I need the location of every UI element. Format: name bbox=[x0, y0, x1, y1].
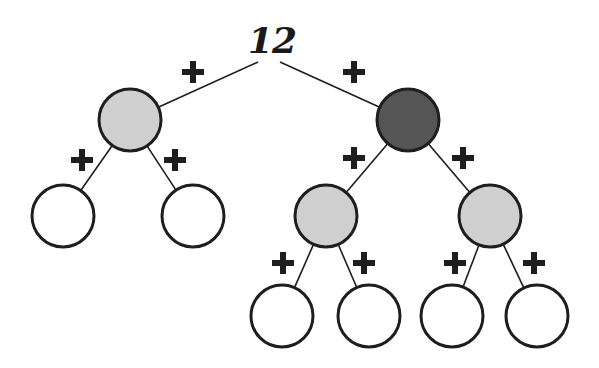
plus-icon bbox=[444, 252, 466, 274]
tree-diagram bbox=[0, 0, 599, 368]
plus-icon bbox=[452, 147, 474, 169]
tree-node-light bbox=[295, 185, 357, 247]
tree-node-empty bbox=[162, 185, 224, 247]
tree-node-empty bbox=[338, 285, 400, 347]
plus-icon bbox=[353, 252, 375, 274]
plus-icon bbox=[164, 149, 186, 171]
tree-edge bbox=[158, 62, 258, 107]
tree-node-light bbox=[459, 185, 521, 247]
plus-icon bbox=[182, 61, 204, 83]
tree-node-light bbox=[99, 89, 161, 151]
tree-node-empty bbox=[506, 285, 568, 347]
tree-node-empty bbox=[251, 285, 313, 347]
plus-icon bbox=[343, 147, 365, 169]
root-value-label: 12 bbox=[248, 22, 296, 58]
tree-edge bbox=[503, 244, 524, 288]
tree-node-empty bbox=[421, 285, 483, 347]
tree-node-dark bbox=[377, 89, 439, 151]
tree-node-empty bbox=[32, 185, 94, 247]
plus-icon bbox=[343, 61, 365, 83]
plus-icon bbox=[272, 252, 294, 274]
plus-icon bbox=[71, 149, 93, 171]
tree-edge bbox=[294, 244, 313, 287]
plus-icon bbox=[523, 252, 545, 274]
